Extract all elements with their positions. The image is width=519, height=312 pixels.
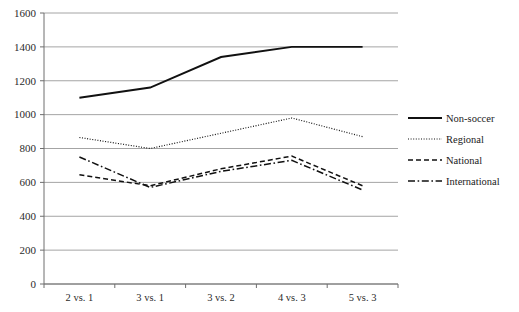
- x-axis-tick-label: 2 vs. 1: [66, 292, 94, 303]
- y-axis-tick-label: 1600: [14, 7, 37, 19]
- y-axis-tick-label: 1000: [14, 108, 37, 120]
- legend-label-international: International: [446, 176, 500, 187]
- y-axis-tick-label: 800: [20, 142, 37, 154]
- y-axis-tick-label: 1200: [14, 75, 37, 87]
- x-axis-tick-label: 3 vs. 1: [136, 292, 164, 303]
- line-chart-plot: 16001400120010008006004002000 2 vs. 13 v…: [0, 0, 519, 312]
- x-axis-tick-group: [44, 284, 398, 288]
- x-axis-tick-label: 4 vs. 3: [278, 292, 306, 303]
- y-axis-tick-label: 200: [20, 244, 37, 256]
- x-axis-tick-label: 5 vs. 3: [349, 292, 377, 303]
- legend-label-national: National: [446, 155, 482, 166]
- series-line-non-soccer: [79, 47, 362, 98]
- chart-container: 16001400120010008006004002000 2 vs. 13 v…: [0, 0, 519, 312]
- series-line-international: [79, 157, 362, 190]
- series-line-national: [79, 156, 362, 186]
- data-series-group: [79, 47, 362, 190]
- gridline-group: [40, 13, 398, 284]
- series-line-regional: [79, 118, 362, 148]
- chart-legend: Non-soccerRegionalNationalInternational: [408, 113, 500, 187]
- legend-label-regional: Regional: [446, 134, 484, 145]
- x-axis-tick-label-group: 2 vs. 13 vs. 13 vs. 24 vs. 35 vs. 3: [66, 292, 377, 303]
- y-axis-tick-label-group: 16001400120010008006004002000: [14, 7, 37, 290]
- x-axis-tick-label: 3 vs. 2: [207, 292, 235, 303]
- y-axis-tick-label: 600: [20, 176, 37, 188]
- y-axis-tick-label: 1400: [14, 41, 37, 53]
- y-axis-tick-label: 0: [31, 278, 37, 290]
- legend-label-non-soccer: Non-soccer: [446, 113, 495, 124]
- y-axis-tick-label: 400: [20, 210, 37, 222]
